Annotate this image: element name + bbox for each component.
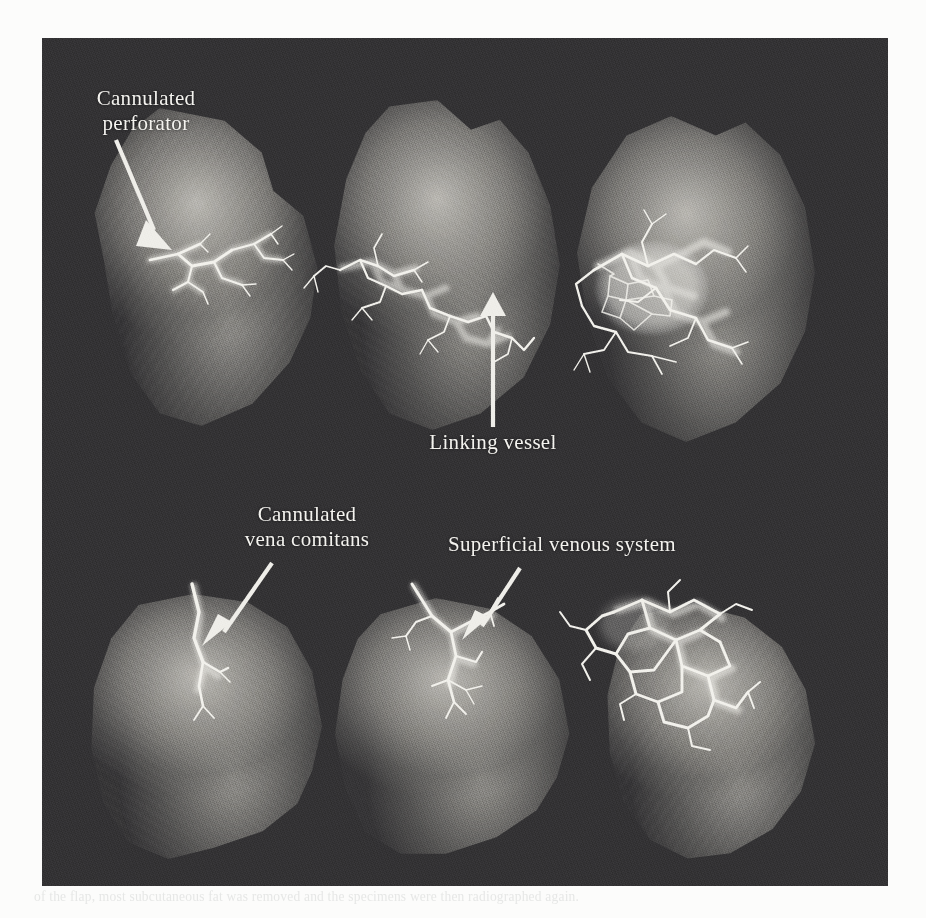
vessel-overlay [42, 38, 888, 886]
label-superficial-venous-system: Superficial venous system [448, 532, 768, 557]
vessels-bottom-left [192, 584, 230, 720]
label-cannulated-vena-comitans: Cannulated vena comitans [202, 502, 412, 552]
vessels-top-middle [304, 234, 534, 362]
angiogram-plate: Cannulated perforator Linking vessel Can… [42, 38, 888, 886]
label-cannulated-perforator: Cannulated perforator [66, 86, 226, 136]
vessels-bottom-right [560, 580, 760, 750]
figure-page: Cannulated perforator Linking vessel Can… [0, 0, 926, 918]
vessels-bottom-middle [392, 584, 504, 718]
vessels-top-left [150, 226, 294, 304]
label-linking-vessel: Linking vessel [398, 430, 588, 455]
ghost-caption-bleedthrough: of the flap, most subcutaneous fat was r… [34, 889, 894, 910]
vessels-top-right [574, 210, 748, 374]
